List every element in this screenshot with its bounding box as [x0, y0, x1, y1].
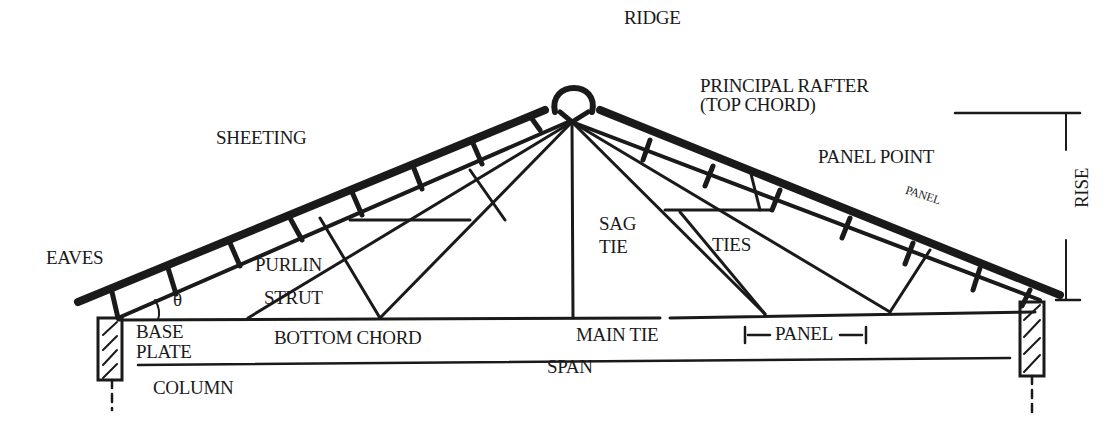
label-span: SPAN — [547, 357, 593, 377]
label-base: BASE — [136, 322, 183, 342]
label-panel-point: PANEL POINT — [818, 147, 934, 167]
label-column: COLUMN — [153, 378, 234, 398]
label-ridge: RIDGE — [624, 8, 681, 28]
label-purlin: PURLIN — [255, 255, 322, 275]
label-main-tie: MAIN TIE — [576, 325, 658, 345]
label-eaves: EAVES — [46, 248, 103, 268]
label-theta: θ — [173, 290, 182, 310]
label-tie: TIE — [599, 237, 628, 257]
label-plate: PLATE — [136, 342, 192, 362]
label-bottom-chord: BOTTOM CHORD — [274, 328, 422, 348]
right-top-chord — [600, 110, 1060, 295]
label-panel-bottom: PANEL — [775, 324, 833, 344]
label-sag: SAG — [599, 214, 636, 234]
label-top-chord: (TOP CHORD) — [700, 95, 815, 115]
label-principal-rafter: PRINCIPAL RAFTER — [700, 76, 869, 96]
label-ties: TIES — [712, 235, 751, 255]
label-strut: STRUT — [264, 288, 323, 308]
label-sheeting: SHEETING — [216, 128, 306, 148]
label-rise: RISE — [1072, 168, 1092, 208]
